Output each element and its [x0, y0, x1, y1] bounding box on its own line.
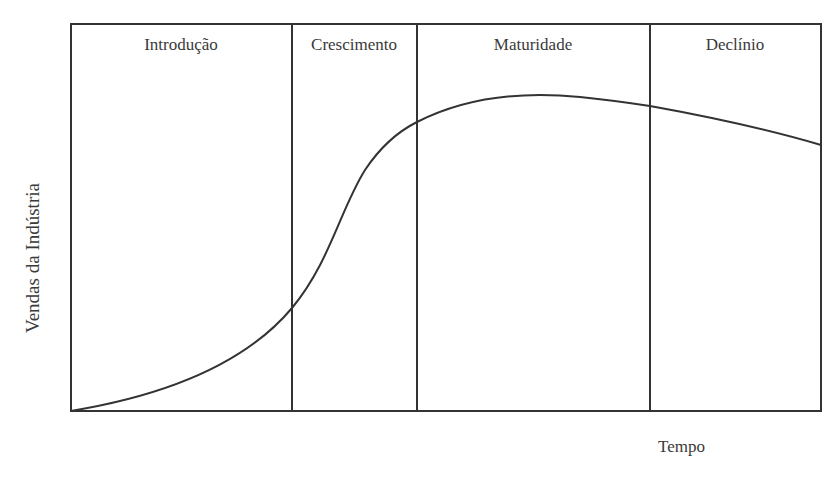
product-life-cycle-diagram: Introdução Crescimento Maturidade Declín… — [0, 0, 840, 479]
phase-label-growth: Crescimento — [311, 35, 397, 55]
sales-curve — [71, 95, 821, 411]
y-axis-label: Vendas da Indústria — [22, 183, 44, 333]
x-axis-label: Tempo — [658, 437, 705, 457]
phase-label-decline: Declínio — [706, 35, 765, 55]
plot-frame — [71, 24, 821, 411]
phase-label-introduction: Introdução — [144, 35, 218, 55]
phase-label-maturity: Maturidade — [494, 35, 572, 55]
diagram-canvas — [0, 0, 840, 479]
